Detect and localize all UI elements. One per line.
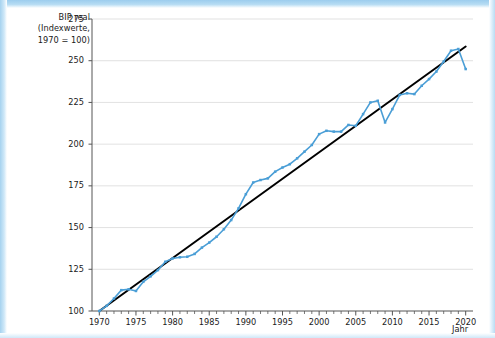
x-tick-label: 1990: [229, 317, 263, 327]
y-tick-label: 100: [58, 306, 84, 316]
x-tick-label: 2020: [449, 317, 483, 327]
plot-area: [0, 0, 495, 338]
axis-ticks: [89, 19, 466, 316]
x-tick-label: 2015: [412, 317, 446, 327]
y-tick-label: 150: [58, 222, 84, 232]
axis-lines: [92, 19, 473, 311]
x-tick-label: 1970: [82, 317, 116, 327]
y-tick-label: 250: [58, 55, 84, 65]
chart-figure: BIP real (Indexwerte, 1970 = 100) Jahr 1…: [0, 0, 495, 338]
y-tick-label: 200: [58, 139, 84, 149]
y-tick-label: 275: [58, 14, 84, 24]
trend-line: [99, 47, 465, 311]
y-tick-label: 225: [58, 97, 84, 107]
x-tick-label: 1980: [156, 317, 190, 327]
x-tick-label: 1995: [266, 317, 300, 327]
x-tick-label: 1975: [119, 317, 153, 327]
x-tick-label: 2005: [339, 317, 373, 327]
x-tick-label: 2000: [302, 317, 336, 327]
y-tick-label: 125: [58, 264, 84, 274]
y-tick-label: 175: [58, 180, 84, 190]
x-tick-label: 1985: [192, 317, 226, 327]
gridlines: [92, 19, 473, 269]
x-tick-label: 2010: [375, 317, 409, 327]
